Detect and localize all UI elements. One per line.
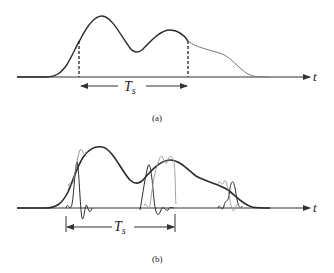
- ts-label-a: Ts: [124, 79, 136, 96]
- pulse-curve-a: [17, 16, 188, 77]
- panel-a: t Ts (a): [17, 16, 317, 123]
- axis-label-t-b: t: [313, 200, 317, 215]
- panel-b: t Ts (b): [17, 147, 317, 264]
- caption-a: (a): [152, 113, 162, 123]
- caption-b: (b): [152, 254, 163, 264]
- sinc-pulse-2: [140, 165, 174, 215]
- figure-canvas: t Ts (a) t: [0, 0, 334, 273]
- reconstructed-curve-b: [17, 147, 270, 208]
- axis-label-t-a: t: [313, 69, 317, 84]
- pulse-tail-a: [188, 41, 270, 77]
- ts-label-b: Ts: [114, 219, 126, 236]
- sinc-pulse-1: [66, 162, 92, 219]
